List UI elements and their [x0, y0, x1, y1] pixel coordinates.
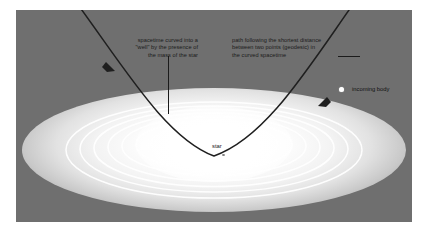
incoming-body-label: incoming body — [352, 86, 389, 92]
annotation-line: the curved spacetime — [232, 52, 344, 59]
annotation-line: spacetime curved into a — [96, 37, 198, 44]
annotation-line: between two points (geodesic) in — [232, 44, 344, 51]
spacetime-curvature-figure: spacetime curved into a "well" by the pr… — [0, 0, 427, 232]
diagram-panel: spacetime curved into a "well" by the pr… — [16, 10, 412, 222]
geodesic-annotation: path following the shortest distance bet… — [232, 37, 344, 59]
annotation-line: path following the shortest distance — [232, 37, 344, 44]
spacetime-well-annotation: spacetime curved into a "well" by the pr… — [96, 37, 198, 59]
incoming-body-dot — [339, 87, 344, 92]
geodesic-path-layer — [16, 10, 412, 222]
geodesic-path — [76, 10, 356, 156]
annotation-line: "well" by the presence of — [96, 44, 198, 51]
arrowhead-right — [318, 97, 331, 107]
arrowhead-left — [102, 62, 115, 72]
leader-line-well — [168, 56, 169, 114]
star-dot — [222, 154, 225, 156]
annotation-line: the mass of the star — [96, 52, 198, 59]
star-label: star — [212, 143, 222, 149]
